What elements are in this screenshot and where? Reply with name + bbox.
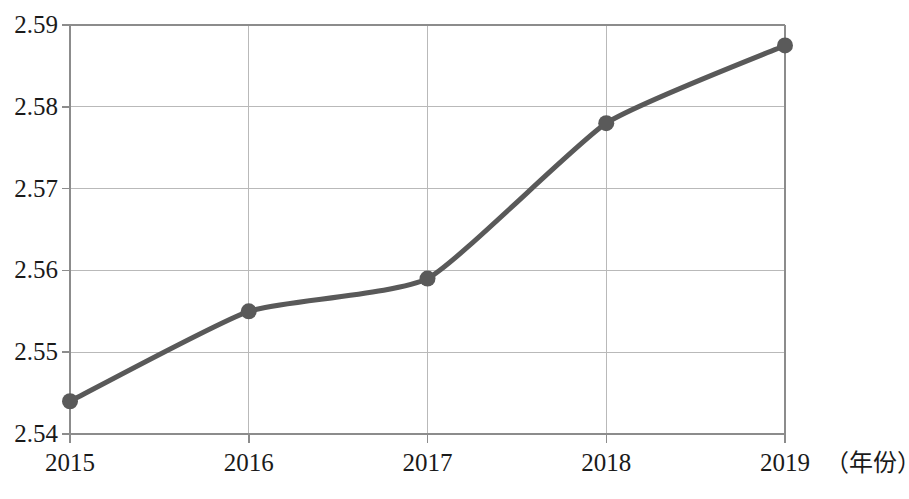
x-axis-tick-label: 2018: [581, 450, 631, 475]
x-axis-tick-label: 2015: [45, 450, 95, 475]
x-axis-tick-label: 2019: [760, 450, 810, 475]
x-axis-title: （年份）: [825, 451, 909, 475]
x-axis-tick-label: 2016: [224, 450, 274, 475]
x-axis-tick-label: 2017: [403, 450, 453, 475]
